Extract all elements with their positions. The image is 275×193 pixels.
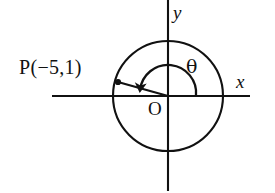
angle-theta-label: θ [186, 57, 197, 76]
origin-label: O [148, 99, 162, 118]
x-axis-label: x [236, 72, 244, 91]
terminal-ray-op [118, 82, 168, 96]
y-axis-label: y [173, 3, 181, 22]
geometry-diagram [0, 0, 275, 193]
point-p-label: P(−5,1) [19, 57, 82, 77]
figure-canvas: P(−5,1) θ y x O [0, 0, 275, 193]
point-p-marker [115, 79, 121, 85]
